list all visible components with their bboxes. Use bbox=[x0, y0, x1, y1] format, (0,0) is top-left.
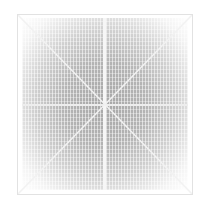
texture-image bbox=[0, 0, 209, 210]
outer-frame bbox=[17, 14, 193, 195]
